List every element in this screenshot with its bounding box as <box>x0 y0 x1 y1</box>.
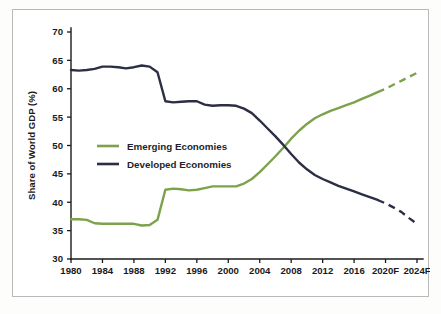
x-tick-label: 1992 <box>155 265 176 276</box>
chart-legend: Emerging EconomiesDeveloped Economies <box>97 141 232 170</box>
series-lines <box>71 65 417 225</box>
y-tick-label: 30 <box>52 253 63 264</box>
x-tick-label: 2012 <box>312 265 333 276</box>
y-tick-label: 70 <box>52 26 63 37</box>
chart-figure: 303540455055606570 198019841988199219962… <box>0 0 441 314</box>
x-tick-label: 2004 <box>249 265 271 276</box>
x-tick-label: 1980 <box>60 265 81 276</box>
y-axis: 303540455055606570 <box>52 26 71 264</box>
series-line-forecast-0 <box>378 73 417 92</box>
y-axis-title: Share of World GDP (%) <box>26 91 37 200</box>
x-tick-label: 2000 <box>218 265 239 276</box>
x-tick-label: 1996 <box>186 265 207 276</box>
series-line-forecast-1 <box>378 200 417 224</box>
y-tick-label: 45 <box>52 168 63 179</box>
series-line-solid-1 <box>71 65 378 200</box>
y-tick-label: 65 <box>52 55 63 66</box>
y-tick-label: 35 <box>52 225 63 236</box>
x-tick-label: 2008 <box>281 265 303 276</box>
x-tick-label: 1984 <box>92 265 114 276</box>
x-tick-label: 2020F <box>372 265 399 276</box>
y-tick-label: 60 <box>52 83 63 94</box>
y-tick-label: 40 <box>52 197 63 208</box>
x-tick-label: 2016 <box>343 265 364 276</box>
chart-frame: 303540455055606570 198019841988199219962… <box>12 9 429 297</box>
line-chart-plot: 303540455055606570 198019841988199219962… <box>13 10 430 298</box>
x-tick-label: 1988 <box>123 265 145 276</box>
x-tick-label: 2024F <box>403 265 430 276</box>
y-tick-label: 50 <box>52 140 63 151</box>
legend-label-1: Developed Economies <box>127 159 232 170</box>
legend-label-0: Emerging Economies <box>127 141 228 152</box>
y-tick-label: 55 <box>52 112 63 123</box>
x-axis: 1980198419881992199620002004200820122016… <box>60 259 430 276</box>
